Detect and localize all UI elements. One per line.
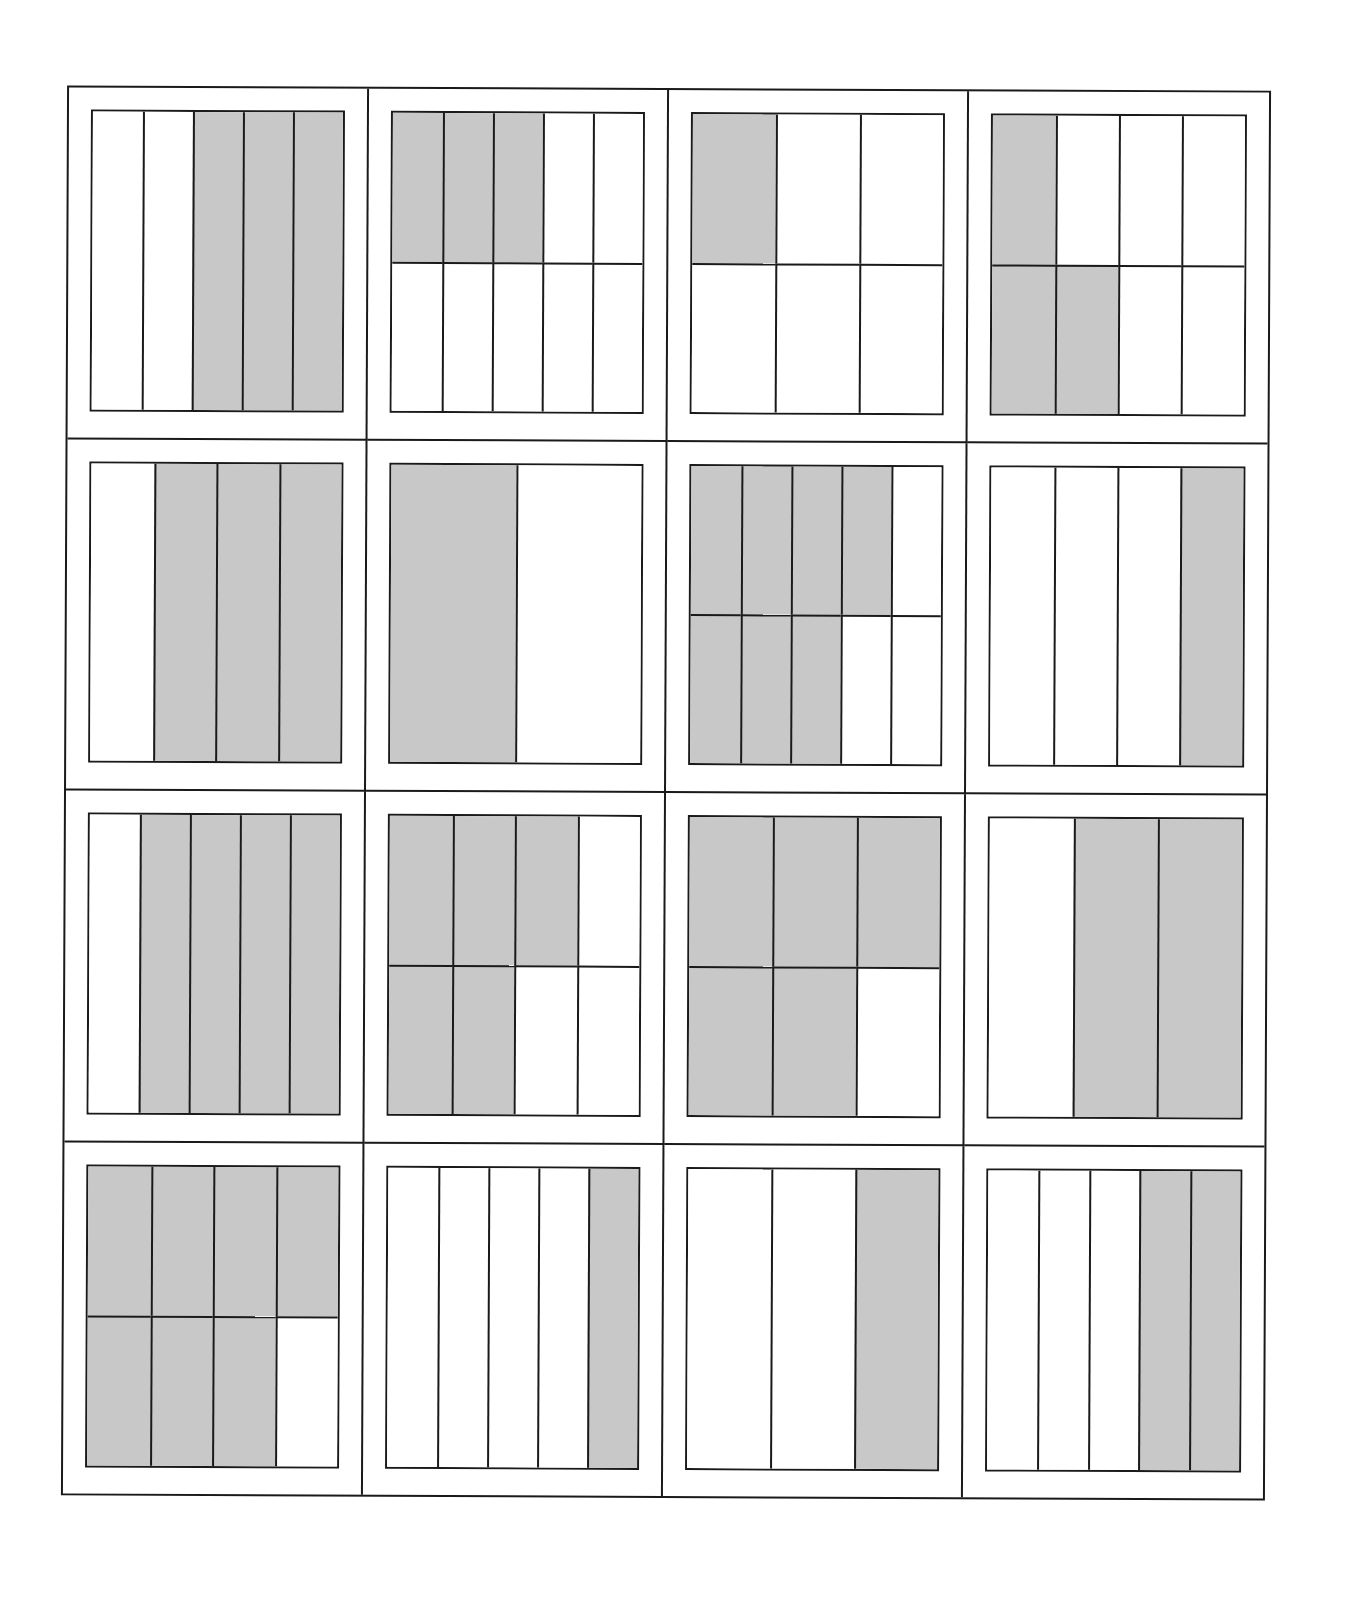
unshaded-part: [142, 112, 193, 410]
shaded-part: [275, 1167, 338, 1317]
unshaded-part: [577, 817, 640, 966]
unshaded-part: [1118, 116, 1182, 265]
fraction-model: [388, 462, 643, 765]
unshaded-part: [1088, 1170, 1140, 1470]
unshaded-part: [1116, 467, 1180, 765]
unshaded-part: [989, 818, 1074, 1116]
shaded-part: [139, 815, 190, 1113]
shaded-part: [292, 112, 343, 410]
unshaded-part: [437, 1168, 488, 1468]
fraction-model: [687, 815, 942, 1118]
shaded-part: [773, 817, 857, 966]
fraction-model: [987, 816, 1244, 1119]
unshaded-part: [687, 1169, 772, 1469]
shaded-part: [242, 112, 293, 410]
shaded-part: [689, 817, 773, 966]
fraction-tile: [363, 1143, 665, 1496]
fraction-tile: [66, 439, 368, 792]
unshaded-part: [692, 263, 776, 412]
fraction-model: [385, 1165, 640, 1470]
unshaded-part: [855, 967, 939, 1116]
unshaded-part: [840, 615, 891, 764]
unshaded-part: [542, 113, 593, 262]
fraction-model: [688, 464, 943, 767]
unshaded-part: [492, 262, 543, 411]
unshaded-part: [537, 1168, 588, 1468]
unshaded-part: [275, 1317, 338, 1467]
fraction-tile: [64, 790, 366, 1143]
shaded-part: [992, 264, 1056, 413]
fraction-model: [390, 111, 645, 414]
fraction-model: [85, 1164, 340, 1469]
fraction-model: [87, 812, 342, 1115]
shaded-part: [239, 815, 290, 1113]
unshaded-part: [592, 262, 643, 411]
unshaded-part: [770, 1169, 855, 1469]
fraction-tile: [68, 87, 370, 440]
shaded-part: [1157, 819, 1242, 1117]
unshaded-part: [89, 814, 140, 1112]
fraction-model-grid: [61, 85, 1271, 1500]
unshaded-part: [90, 463, 154, 761]
unshaded-part: [890, 615, 941, 764]
shaded-part: [213, 1167, 276, 1317]
shaded-part: [192, 112, 243, 410]
fraction-tile: [63, 1142, 365, 1495]
shaded-part: [772, 966, 856, 1115]
unshaded-part: [858, 264, 942, 413]
unshaded-part: [987, 1170, 1039, 1470]
shaded-part: [841, 466, 892, 615]
unshaded-part: [1181, 116, 1245, 265]
shaded-part: [692, 114, 776, 263]
shaded-part: [153, 463, 217, 761]
unshaded-part: [1053, 467, 1117, 765]
fraction-tile: [368, 89, 670, 442]
shaded-part: [741, 466, 792, 615]
fraction-tile: [668, 90, 970, 443]
shaded-part: [1073, 819, 1158, 1117]
fraction-model: [988, 465, 1245, 768]
fraction-model: [90, 109, 345, 412]
shaded-part: [514, 816, 577, 965]
shaded-part: [389, 816, 452, 965]
shaded-part: [215, 464, 279, 762]
shaded-part: [88, 1166, 151, 1316]
fraction-model: [387, 814, 642, 1117]
fraction-model: [985, 1168, 1242, 1473]
shaded-part: [740, 615, 791, 764]
shaded-part: [690, 614, 741, 763]
fraction-tile: [663, 1144, 965, 1497]
unshaded-part: [487, 1168, 538, 1468]
shaded-part: [1138, 1171, 1190, 1471]
shaded-part: [587, 1168, 638, 1468]
shaded-part: [189, 815, 240, 1113]
unshaded-part: [515, 465, 641, 763]
shaded-part: [1179, 468, 1243, 766]
unshaded-part: [859, 115, 943, 264]
unshaded-part: [92, 111, 143, 409]
fraction-tile: [364, 792, 666, 1145]
unshaded-part: [387, 1167, 438, 1467]
shaded-part: [390, 464, 516, 762]
unshaded-part: [990, 467, 1054, 765]
shaded-part: [392, 113, 443, 262]
fraction-model: [690, 112, 945, 415]
shaded-part: [791, 466, 842, 615]
shaded-part: [992, 115, 1056, 264]
fraction-tile: [964, 794, 1266, 1147]
shaded-part: [452, 816, 515, 965]
shaded-part: [856, 818, 940, 967]
shaded-part: [278, 464, 342, 762]
shaded-part: [1189, 1171, 1241, 1471]
shaded-part: [212, 1316, 275, 1466]
fraction-tile: [366, 440, 668, 793]
fraction-tile: [963, 1146, 1265, 1499]
unshaded-part: [891, 466, 942, 615]
shaded-part: [691, 466, 742, 615]
shaded-part: [1055, 264, 1119, 413]
unshaded-part: [1037, 1170, 1089, 1470]
shaded-part: [87, 1316, 150, 1466]
unshaded-part: [1055, 116, 1119, 265]
fraction-tile: [966, 443, 1268, 796]
unshaded-part: [1181, 265, 1245, 414]
